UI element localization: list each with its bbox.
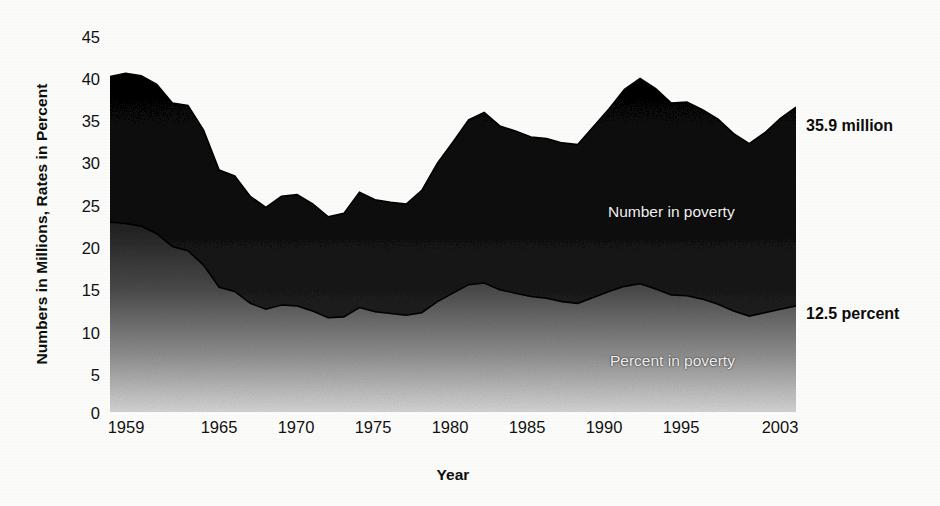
poverty-area-chart: Numbers in Millions, Rates in Percent 45… — [0, 0, 940, 506]
x-tick-label: 1970 — [278, 418, 315, 437]
x-tick-label: 1995 — [663, 418, 700, 437]
y-tick-label: 10 — [60, 325, 100, 342]
x-tick-label: 1975 — [355, 418, 392, 437]
x-tick-label: 1965 — [201, 418, 238, 437]
y-tick-label: 0 — [60, 405, 100, 422]
plot-area: Number in poverty Percent in poverty — [110, 30, 796, 412]
y-tick-label: 15 — [60, 282, 100, 299]
y-tick-label: 40 — [60, 71, 100, 88]
x-tick-label: 1985 — [509, 418, 546, 437]
y-axis-tick-labels: 45 40 35 30 25 20 15 10 5 0 — [48, 0, 100, 440]
percent-endpoint-annotation: 12.5 percent — [806, 305, 899, 323]
y-tick-label: 25 — [60, 198, 100, 215]
x-tick-label: 1959 — [108, 418, 145, 437]
y-tick-label: 45 — [60, 29, 100, 46]
x-tick-label: 1980 — [432, 418, 469, 437]
x-tick-label: 2003 — [762, 418, 799, 437]
number-in-poverty-label: Number in poverty — [608, 203, 735, 221]
y-tick-label: 5 — [60, 367, 100, 384]
percent-in-poverty-label: Percent in poverty — [610, 352, 735, 370]
y-tick-label: 35 — [60, 113, 100, 130]
y-tick-label: 20 — [60, 240, 100, 257]
y-tick-label: 30 — [60, 155, 100, 172]
number-endpoint-annotation: 35.9 million — [806, 117, 893, 135]
x-tick-label: 1990 — [586, 418, 623, 437]
x-axis-title: Year — [110, 466, 796, 484]
